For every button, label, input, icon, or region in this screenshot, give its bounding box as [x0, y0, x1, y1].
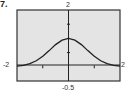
- graph-plot: [0, 0, 126, 94]
- xmin-label: -2: [3, 61, 9, 68]
- ymax-label: 2: [66, 1, 70, 8]
- xmax-label: 2: [121, 61, 125, 68]
- ymin-label: -0.5: [62, 84, 74, 91]
